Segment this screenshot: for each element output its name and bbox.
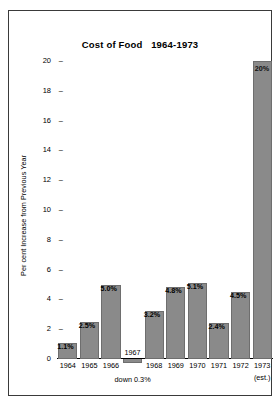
bar-1972[interactable] [231, 292, 250, 359]
bar-1970[interactable] [188, 283, 207, 359]
x-axis-labels: 196419651966196819691970197119721973 [57, 361, 273, 373]
bar-slot-1967: 1967 [123, 61, 142, 359]
x-tick-label-1971: 1971 [208, 361, 230, 370]
y-tick-label: 6 [36, 265, 51, 275]
y-tick-label: 16 [36, 116, 51, 126]
bar-slot-1972: 4.5% [231, 61, 250, 359]
x-tick-label-1973: 1973 [251, 361, 273, 370]
y-tick-label: 10 [36, 205, 51, 215]
y-tick-label: 20 [36, 56, 51, 66]
x-tick-label-1972: 1972 [230, 361, 252, 370]
x-tick-label-1965: 1965 [79, 361, 101, 370]
down-note: down 0.3% [100, 375, 166, 384]
bar-slot-1973: 20% [253, 61, 272, 359]
bar-slot-1966: 5.0% [101, 61, 120, 359]
chart-title: Cost of Food 1964-1973 [9, 39, 271, 50]
bar-1969[interactable] [166, 287, 185, 359]
y-tick-label: 0 [36, 354, 51, 364]
y-tick-label: 2 [36, 324, 51, 334]
y-tick-label: 12 [36, 175, 51, 185]
estimate-note: (est.) [251, 373, 273, 382]
x-tick-label-1968: 1968 [143, 361, 165, 370]
y-tick-label: 4 [36, 294, 51, 304]
x-tick-label-1964: 1964 [57, 361, 79, 370]
bar-slot-1969: 4.8% [166, 61, 185, 359]
bar-value-label-1973: 20% [255, 64, 269, 73]
bar-slot-1965: 2.5% [80, 61, 99, 359]
x-tick-label-1969: 1969 [165, 361, 187, 370]
chart-frame: Cost of Food 1964-1973 Per cent Increase… [8, 10, 272, 396]
y-tick-label: 14 [36, 145, 51, 155]
plot-area: 1.1%2.5%5.0%19673.2%4.8%5.1%2.4%4.5%20% [57, 61, 273, 359]
bar-slot-1964: 1.1% [58, 61, 77, 359]
bar-slot-1971: 2.4% [209, 61, 228, 359]
bar-1966[interactable] [101, 285, 120, 360]
x-tick-label-1970: 1970 [187, 361, 209, 370]
y-tick-label: 18 [36, 86, 51, 96]
y-tick-label: 8 [36, 235, 51, 245]
bar-slot-1968: 3.2% [145, 61, 164, 359]
bar-category-label-1967: 1967 [120, 349, 145, 357]
bar-1973[interactable]: 20% [253, 61, 272, 359]
bar-slot-1970: 5.1% [188, 61, 207, 359]
x-tick-label-1966: 1966 [100, 361, 122, 370]
